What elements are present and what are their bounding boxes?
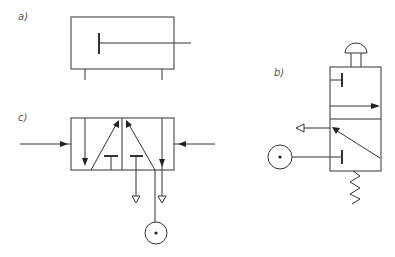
pneumatic-diagram [0, 0, 395, 257]
cylinder-a [71, 17, 191, 80]
valve-b [268, 43, 381, 204]
valve-c [20, 118, 215, 244]
